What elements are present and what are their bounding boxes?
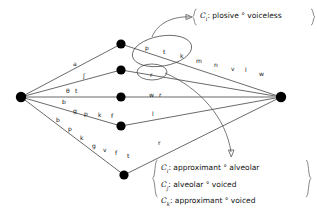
annotation-top-line-1: Ci: plosive ° voiceless <box>200 12 282 22</box>
edge-source-n1 <box>21 44 121 97</box>
edge-label-r-ellipse: r <box>150 72 152 78</box>
node-row1 <box>116 39 125 48</box>
edge-label-l2: l <box>152 111 154 117</box>
pointer-top <box>152 14 192 37</box>
edge-label-esh: ʃ <box>83 73 85 79</box>
brace-bottom-left <box>153 160 158 197</box>
edge-label-p1: p <box>84 111 88 117</box>
node-group <box>16 39 286 179</box>
edge-label-w1: w <box>259 71 264 77</box>
annotation-approximant-group: Ci: approximant ° alveolar Cj: alveolar … <box>161 164 259 210</box>
edge-label-a: a <box>73 61 77 67</box>
edge-n1-sink <box>121 44 281 97</box>
pointer-top-curve <box>152 17 190 37</box>
edge-label-r3: r <box>158 140 160 146</box>
edge-label-v2: v <box>231 66 235 72</box>
pointer-bottom-curve <box>165 73 231 152</box>
edge-label-k3: k <box>180 53 183 59</box>
edge-label-f1: f <box>111 113 113 119</box>
edge-label-m: m <box>196 58 202 64</box>
node-row5 <box>119 170 128 179</box>
edge-label-g2: g <box>92 143 96 149</box>
brace-bottom-right <box>306 160 311 197</box>
edge-label-p3: p <box>145 45 149 51</box>
annotation-bottom-line-3: Ck: approximant ° voiced <box>161 197 259 207</box>
edge-label-g1: g <box>73 108 77 114</box>
edge-label-b2: b <box>56 117 60 123</box>
diagram-canvas: aʃθtbgpkfbpkgvftptkmnvlwrwrlr Ci: plosiv… <box>0 0 317 214</box>
edge-label-t1: t <box>75 88 77 94</box>
pointer-bottom <box>165 73 234 157</box>
edge-label-theta: θ <box>66 88 70 94</box>
edge-label-t3: t <box>163 49 165 55</box>
brace-top-right <box>311 9 315 25</box>
annotation-bottom-line-2: Cj: alveolar ° voiced <box>161 181 259 191</box>
edge-label-w2: w <box>149 92 154 98</box>
edge-label-n: n <box>214 62 218 68</box>
left-vertex <box>16 92 26 102</box>
edge-n2-sink <box>121 70 281 97</box>
node-row3 <box>116 92 125 101</box>
node-row2 <box>116 65 125 74</box>
edge-n4-sink <box>121 97 281 126</box>
edge-label-r2: r <box>159 92 161 98</box>
edge-label-k1: k <box>98 112 101 118</box>
edge-source-n4 <box>21 97 121 126</box>
edge-label-v1: v <box>103 147 107 153</box>
edge-label-t2: t <box>127 153 129 159</box>
annotation-plosive-voiceless: Ci: plosive ° voiceless <box>200 12 282 25</box>
edge-label-k2: k <box>80 135 83 141</box>
edge-label-f2: f <box>115 150 117 156</box>
diagram-vector-layer <box>0 0 317 214</box>
edge-label-l1: l <box>245 67 247 73</box>
brace-top-left <box>193 9 197 25</box>
right-vertex <box>276 92 286 102</box>
edge-source-n2 <box>21 70 121 97</box>
edge-label-b1: b <box>62 99 66 105</box>
node-row4 <box>116 121 125 130</box>
annotation-bottom-line-1: Ci: approximant ° alveolar <box>161 164 259 174</box>
edge-label-p2: p <box>68 126 72 132</box>
